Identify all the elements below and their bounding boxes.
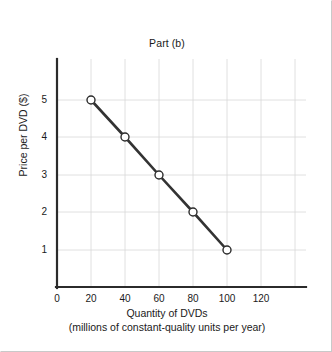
gridlines-horizontal [56,100,306,250]
y-tick-label-2: 2 [21,206,47,217]
x-axis-label-block: Quantity of DVDs (millions of constant-q… [1,306,332,334]
x-tick-label-20: 20 [76,293,106,304]
data-point-80-2 [189,208,197,216]
y-axis-label: Price per DVD ($) [17,75,29,195]
data-point-100-1 [223,246,231,254]
figure-frame: Part (b) [0,0,332,352]
x-axis-label: Quantity of DVDs [1,306,332,320]
data-point-60-3 [155,171,163,179]
x-tick-label-40: 40 [110,293,140,304]
x-tick-label-60: 60 [144,293,174,304]
data-point-40-4 [121,133,129,141]
x-axis-label-sub: (millions of constant-quality units per … [1,320,332,334]
x-tick-label-120: 120 [246,293,276,304]
gridlines-vertical [91,59,295,288]
x-tick-label-80: 80 [178,293,208,304]
y-tick-label-1: 1 [21,244,47,255]
chart-canvas: Part (b) [1,1,332,352]
x-tick-label-0: 0 [42,293,72,304]
x-tick-label-100: 100 [212,293,242,304]
data-point-20-5 [87,96,95,104]
